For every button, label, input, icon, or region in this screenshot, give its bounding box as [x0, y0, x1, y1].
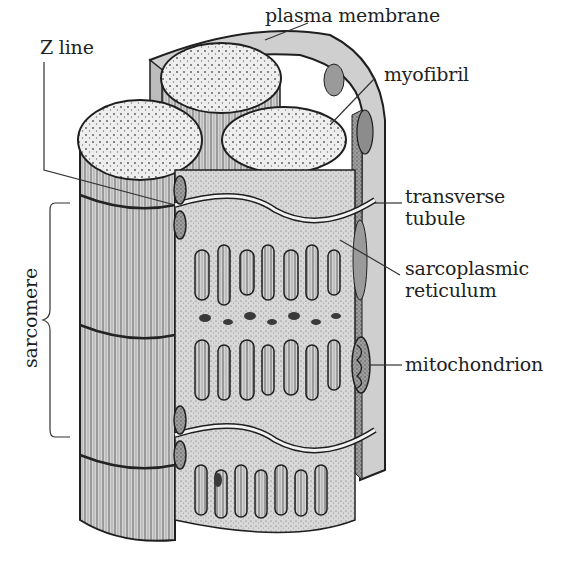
myofibril-front-right	[222, 107, 346, 173]
label-sarcoplasmic-reticulum-line2: reticulum	[405, 280, 496, 301]
label-plasma-membrane: plasma membrane	[265, 5, 440, 26]
label-z-line: Z line	[40, 37, 94, 58]
label-transverse-tubule-line2: tubule	[405, 208, 465, 229]
label-transverse-tubule-line1: transverse	[405, 186, 505, 207]
label-sarcoplasmic-reticulum-line1: sarcoplasmic	[405, 258, 529, 279]
label-mitochondrion: mitochondrion	[405, 354, 543, 375]
label-myofibril: myofibril	[384, 64, 469, 85]
sarcoplasmic-reticulum-network	[174, 170, 375, 533]
label-sarcomere: sarcomere	[20, 268, 41, 368]
